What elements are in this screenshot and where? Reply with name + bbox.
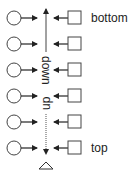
square-icon [68, 115, 81, 128]
square-icon [68, 37, 81, 50]
top-label: top [91, 141, 108, 155]
square-icon [68, 89, 81, 102]
circle-icon [7, 141, 21, 155]
row-5 [7, 115, 81, 129]
triangle-icon [39, 162, 53, 169]
bottom-label: bottom [91, 11, 128, 25]
row-6 [7, 141, 81, 155]
down-label: down [39, 56, 53, 85]
row-1 [7, 11, 81, 25]
stack-diagram: down up bottom top [0, 0, 135, 171]
circle-icon [7, 89, 21, 103]
square-icon [68, 141, 81, 154]
square-icon [68, 11, 81, 24]
circle-icon [7, 63, 21, 77]
circle-icon [7, 37, 21, 51]
row-2 [7, 37, 81, 51]
circle-icon [7, 11, 21, 25]
circle-icon [7, 115, 21, 129]
up-label: up [39, 96, 53, 110]
square-icon [68, 63, 81, 76]
